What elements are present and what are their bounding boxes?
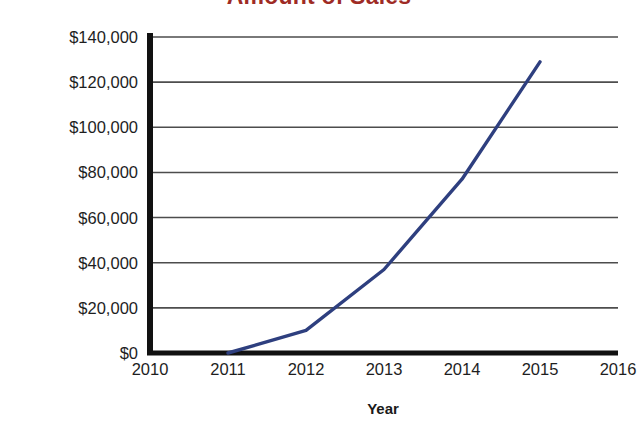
- x-tick-label: 2016: [573, 360, 638, 379]
- y-tick-label: $140,000: [0, 28, 138, 47]
- y-tick-label: $100,000: [0, 118, 138, 137]
- y-tick-label: $120,000: [0, 73, 138, 92]
- y-tick-label: $40,000: [0, 253, 138, 272]
- x-tick-label: 2013: [339, 360, 429, 379]
- x-tick-label: 2014: [417, 360, 507, 379]
- y-tick-label: $80,000: [0, 163, 138, 182]
- x-tick-label: 2011: [183, 360, 273, 379]
- x-tick-label: 2010: [105, 360, 195, 379]
- y-tick-label: $20,000: [0, 298, 138, 317]
- x-axis-title: Year: [148, 400, 618, 417]
- x-tick-label: 2015: [495, 360, 585, 379]
- chart-container: Amount of Sales $0$20,000$40,000$60,000$…: [0, 0, 638, 432]
- y-tick-label: $60,000: [0, 208, 138, 227]
- x-tick-label: 2012: [261, 360, 351, 379]
- tick-label-layer: $0$20,000$40,000$60,000$80,000$100,000$1…: [0, 0, 638, 432]
